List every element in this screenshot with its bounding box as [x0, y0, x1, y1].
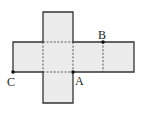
label-a: A [75, 74, 84, 88]
point-c [11, 70, 15, 74]
label-c: C [7, 75, 15, 89]
face-bottom [43, 72, 73, 103]
face-top [43, 12, 73, 42]
label-b: B [98, 28, 106, 42]
cube-net-diagram: A B C [0, 0, 144, 116]
face-strip [13, 42, 134, 72]
